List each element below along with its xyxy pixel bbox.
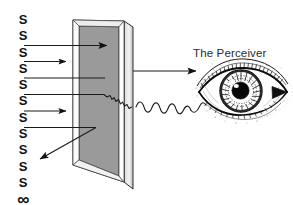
wave-segment-air	[136, 102, 191, 114]
panel-screen	[79, 26, 119, 176]
eye-catchlight	[234, 84, 239, 88]
panel-bevel-left	[73, 20, 79, 165]
diagram-vector-layer	[0, 0, 293, 205]
eye-pupil	[232, 82, 249, 99]
figure-canvas: S S S S S S S S S S S ∞	[0, 0, 293, 205]
perceiver-label: The Perceiver	[193, 47, 267, 59]
panel-bevel-top	[73, 20, 124, 27]
eye-illustration	[192, 57, 292, 124]
